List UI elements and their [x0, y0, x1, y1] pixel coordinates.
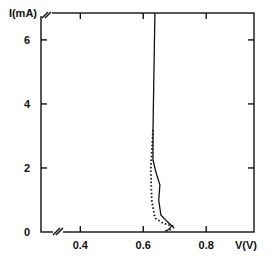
plot-frame	[38, 11, 254, 235]
axis-ticks	[41, 13, 254, 232]
data-series	[151, 13, 175, 231]
y-axis-title: I(mA)	[9, 7, 37, 19]
plot-border	[41, 13, 254, 232]
y-tick-label: 2	[24, 162, 30, 174]
x-tick-label: 0.4	[73, 239, 89, 251]
y-tick-label: 4	[24, 98, 31, 110]
x-tick-label: 0.8	[199, 239, 214, 251]
x-tick-label: 0.6	[136, 239, 151, 251]
iv-chart: 0.40.60.80246I(mA)V(V)	[0, 0, 272, 266]
x-axis-title: V(V)	[235, 239, 257, 251]
y-tick-label: 0	[24, 226, 30, 238]
solid-curve	[153, 13, 172, 231]
dotted-curve	[151, 130, 175, 231]
y-tick-label: 6	[24, 34, 30, 46]
axis-labels: 0.40.60.80246I(mA)V(V)	[9, 7, 257, 251]
